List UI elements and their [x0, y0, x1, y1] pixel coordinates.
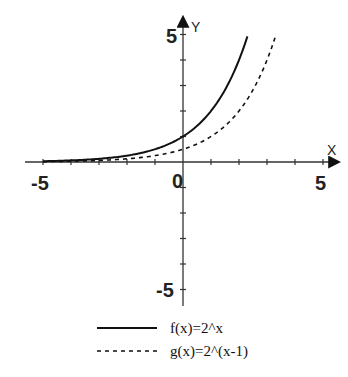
legend-label-f: f(x)=2^x: [170, 320, 223, 337]
y-axis-label: Y: [191, 19, 201, 35]
y-tick-label-min: -5: [156, 279, 174, 301]
x-tick-label-origin: 0: [172, 170, 183, 192]
y-tick-label-max: 5: [166, 25, 177, 47]
x-tick-label-min: -5: [31, 172, 49, 194]
chart-canvas: -5 0 5 5 -5 X Y f(x)=2^x g(x)=2^(x-1): [0, 0, 348, 377]
x-tick-label-max: 5: [315, 172, 326, 194]
legend-label-g: g(x)=2^(x-1): [170, 343, 248, 360]
series-f-curve: [43, 36, 247, 161]
x-axis-label: X: [327, 142, 337, 158]
legend: f(x)=2^x g(x)=2^(x-1): [97, 320, 248, 360]
